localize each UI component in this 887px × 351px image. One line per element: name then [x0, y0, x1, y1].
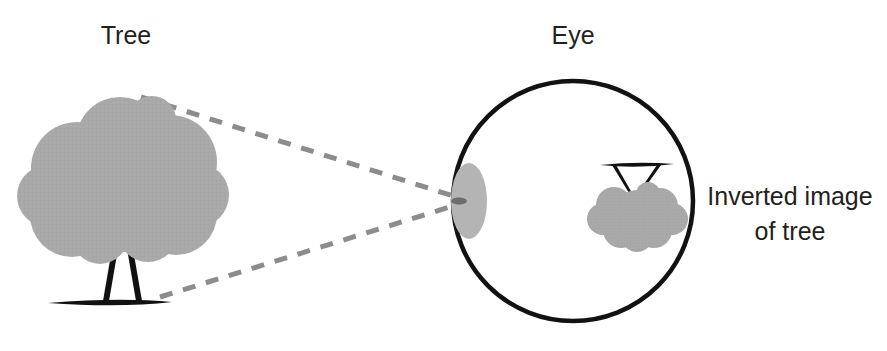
- tree-label: Tree: [101, 21, 151, 49]
- diagram-canvas: Tree Eye Inverted image of tree: [0, 0, 887, 351]
- eye-label: Eye: [551, 21, 594, 49]
- tree-object: [17, 96, 229, 305]
- lens-focal-mark: [451, 198, 467, 205]
- optics-diagram: Tree Eye Inverted image of tree: [0, 0, 887, 351]
- tree-canopy: [17, 96, 229, 264]
- eyeball-group: [451, 81, 693, 321]
- inverted-image-label-line1: Inverted image: [707, 182, 872, 210]
- tree-ground-line: [48, 300, 172, 306]
- inverted-image-label-line2: of tree: [755, 217, 826, 245]
